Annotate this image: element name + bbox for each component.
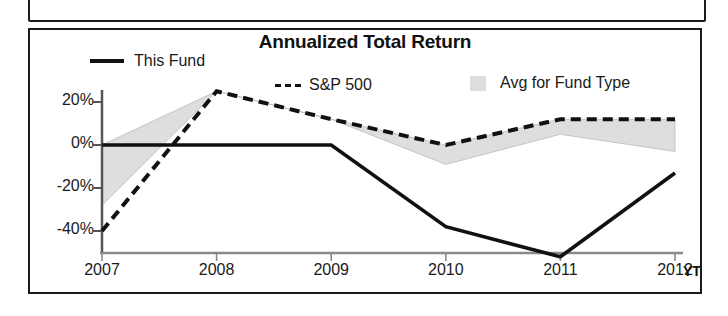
plot-area xyxy=(30,30,702,294)
x-tick-label: 2009 xyxy=(313,261,349,279)
ytd-label: YTD xyxy=(683,263,702,279)
y-axis-ticks xyxy=(93,102,102,231)
x-tick-label: 2007 xyxy=(84,261,120,279)
x-tick-label: 2010 xyxy=(428,261,464,279)
area-avg-for-fund-type xyxy=(102,91,675,205)
series-line-this-fund xyxy=(102,145,675,257)
x-tick-label: 2011 xyxy=(543,261,577,279)
x-tick-label: 2008 xyxy=(199,261,235,279)
annualized-total-return-chart: Annualized Total Return This Fund S&P 50… xyxy=(28,28,702,294)
adjacent-panel-stub xyxy=(28,0,706,22)
